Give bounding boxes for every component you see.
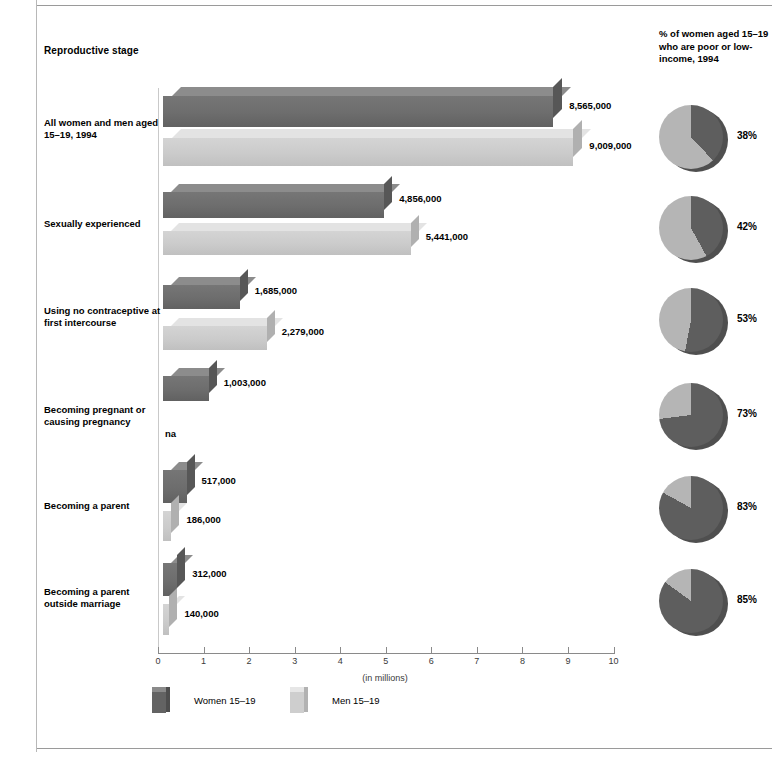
bar-value-men: 5,441,000 <box>426 231 468 242</box>
bar-side-face <box>209 360 217 393</box>
bar-side-face <box>177 547 185 588</box>
bar-front-face <box>163 285 240 309</box>
bar-men <box>163 326 267 350</box>
bar-side-face <box>573 120 582 157</box>
x-axis-tick <box>158 647 159 654</box>
x-axis-tick-label: 6 <box>429 656 434 666</box>
bar-side-face <box>411 215 419 247</box>
x-axis-tick-label: 5 <box>383 656 388 666</box>
bar-top-face <box>171 184 400 192</box>
x-axis-tick <box>295 647 296 654</box>
x-axis-tick-label: 1 <box>201 656 206 666</box>
bar-women <box>163 285 240 309</box>
pie-slices <box>659 196 723 260</box>
x-axis-tick <box>522 647 523 654</box>
bar-value-women: 1,003,000 <box>224 377 266 388</box>
x-axis-tick-label: 10 <box>608 656 618 666</box>
bar-top-face <box>171 223 427 231</box>
bar-value-men: 140,000 <box>184 608 218 619</box>
row-label: Using no contraceptive at first intercou… <box>44 305 164 329</box>
legend-swatch-front-face <box>290 691 304 713</box>
bar-value-women: 1,685,000 <box>255 285 297 296</box>
x-axis-tick-label: 9 <box>565 656 570 666</box>
x-axis-tick <box>386 647 387 654</box>
x-axis-tick <box>340 647 341 654</box>
x-axis-tick-label: 8 <box>520 656 525 666</box>
bar-value-men-na: na <box>165 428 176 439</box>
legend-swatch-women <box>152 687 169 713</box>
bar-side-face <box>384 176 392 210</box>
pie-percent-label: 85% <box>737 594 757 605</box>
legend-label: Men 15–19 <box>332 695 380 706</box>
pie-percent-label: 73% <box>737 408 757 419</box>
legend-label: Women 15–19 <box>194 695 256 706</box>
x-axis-tick-label: 7 <box>474 656 479 666</box>
bar-value-women: 8,565,000 <box>569 100 611 111</box>
legend-swatch-side-face <box>304 687 308 712</box>
pie-slices <box>659 383 723 447</box>
row-label: Becoming a parent <box>44 500 164 512</box>
bar-value-women: 312,000 <box>192 568 226 579</box>
x-axis-tick <box>431 647 432 654</box>
pie-slices <box>659 105 723 169</box>
bar-front-face <box>163 96 553 127</box>
bar-front-face <box>163 231 411 255</box>
x-axis-tick <box>614 647 615 654</box>
pie-slices <box>659 476 723 540</box>
pie-slices <box>659 569 723 633</box>
row-label: All women and men aged 15–19, 1994 <box>44 117 164 141</box>
row-label: Becoming pregnant or causing pregnancy <box>44 404 164 428</box>
bar-value-women: 4,856,000 <box>399 193 441 204</box>
x-axis-caption-text: (in millions) <box>362 673 408 683</box>
legend-swatch-top-face <box>152 687 166 692</box>
pie-percent-label: 38% <box>737 130 757 141</box>
pie-slices <box>659 288 723 352</box>
x-axis-caption: (in millions) <box>0 673 776 683</box>
bar-side-face <box>171 495 179 533</box>
bar-women <box>163 192 384 218</box>
bar-men <box>163 231 411 255</box>
bar-men <box>163 511 171 541</box>
pie-percent-label: 42% <box>737 221 757 232</box>
x-axis-tick-label: 3 <box>292 656 297 666</box>
bar-side-face <box>169 588 177 627</box>
bar-women <box>163 96 553 127</box>
bar-chart-plot: 8,565,0009,009,0004,856,0005,441,0001,68… <box>0 0 776 759</box>
bar-front-face <box>163 192 384 218</box>
bar-side-face <box>240 269 248 301</box>
x-axis-tick <box>568 647 569 654</box>
pie-percent-label: 83% <box>737 501 757 512</box>
bar-women <box>163 376 209 401</box>
bar-value-men: 186,000 <box>186 514 220 525</box>
axis-baseline-vertical <box>158 88 159 654</box>
bar-front-face <box>163 326 267 350</box>
bar-side-face <box>553 78 562 118</box>
x-axis-tick <box>249 647 250 654</box>
legend-swatch-top-face <box>290 687 304 692</box>
row-label: Sexually experienced <box>44 218 164 230</box>
bar-front-face <box>163 138 573 166</box>
pie-percent-label: 53% <box>737 313 757 324</box>
bar-value-women: 517,000 <box>202 475 236 486</box>
x-axis-tick-label: 2 <box>247 656 252 666</box>
row-label: Becoming a parent outside marriage <box>44 586 164 610</box>
bar-value-men: 9,009,000 <box>589 140 631 151</box>
bar-side-face <box>267 310 275 342</box>
x-axis-tick <box>204 647 205 654</box>
legend-swatch-men <box>290 687 307 713</box>
legend-swatch-side-face <box>166 687 170 712</box>
legend-swatch-front-face <box>152 691 166 713</box>
x-axis-tick-label: 0 <box>155 656 160 666</box>
x-axis-tick <box>477 647 478 654</box>
bar-top-face <box>172 87 571 96</box>
bar-front-face <box>163 376 209 401</box>
bar-value-men: 2,279,000 <box>282 326 324 337</box>
bar-side-face <box>187 454 195 495</box>
bar-top-face <box>172 129 591 138</box>
bar-men <box>163 138 573 166</box>
x-axis-tick-label: 4 <box>338 656 343 666</box>
